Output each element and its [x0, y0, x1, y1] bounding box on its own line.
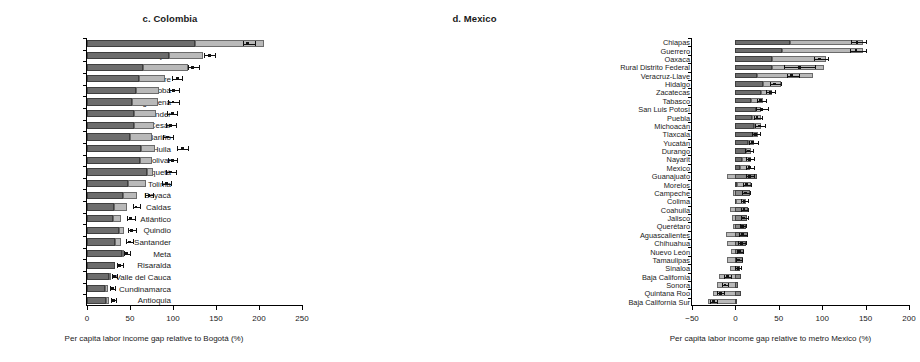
bar-segment-lower [87, 133, 130, 140]
category-label: Baja California Sur [592, 297, 690, 306]
error-bar-cap [757, 99, 758, 103]
bar-segment-lower [87, 145, 141, 152]
x-tick-label: 0 [85, 314, 89, 323]
point-estimate-marker [748, 175, 751, 178]
bar [735, 73, 813, 78]
error-bar-cap [717, 291, 718, 295]
bar [87, 203, 127, 210]
bar-segment-lower [735, 123, 754, 128]
point-estimate-marker [737, 259, 740, 262]
x-axis-line [692, 305, 910, 306]
error-bar-cap [768, 107, 769, 111]
error-bar-cap [116, 298, 117, 303]
point-estimate-marker [760, 108, 763, 111]
bar-segment-lower [87, 250, 122, 257]
category-tick [688, 113, 692, 114]
error-bar-cap [126, 239, 127, 244]
x-tick-label: 150 [209, 314, 222, 323]
category-tick [688, 197, 692, 198]
point-estimate-marker [745, 183, 748, 186]
bar [87, 227, 124, 234]
error-bar-cap [866, 49, 867, 53]
point-estimate-marker [112, 299, 115, 302]
error-bar-cap [128, 228, 129, 233]
category-tick [83, 248, 87, 249]
error-bar-cap [770, 82, 771, 86]
bar [87, 180, 146, 187]
error-bar-cap [745, 149, 746, 153]
point-estimate-marker [773, 83, 776, 86]
error-bar-cap [168, 100, 169, 105]
category-tick [688, 281, 692, 282]
error-bar-cap [115, 286, 116, 291]
point-estimate-marker [129, 217, 132, 220]
error-bar-cap [814, 57, 815, 61]
error-bar-cap [799, 74, 800, 78]
point-estimate-marker [856, 41, 859, 44]
error-bar-cap [741, 208, 742, 212]
bar [87, 64, 188, 71]
x-tick-label: 200 [252, 314, 265, 323]
point-estimate-marker [169, 124, 172, 127]
error-bar-cap [173, 135, 174, 140]
category-tick [83, 271, 87, 272]
bar-segment-lower [735, 274, 741, 279]
error-bar-cap [177, 158, 178, 163]
error-bar-cap [710, 300, 711, 304]
bar [87, 262, 115, 269]
bar-segment-upper [143, 64, 188, 71]
bar-segment-lower [87, 52, 169, 59]
category-tick [688, 155, 692, 156]
category-tick [83, 178, 87, 179]
error-bar-cap [123, 263, 124, 268]
error-bar-cap [752, 132, 753, 136]
bar-segment-lower [87, 110, 134, 117]
x-tick-label: 200 [902, 314, 915, 323]
bar-segment-lower [735, 107, 756, 112]
category-tick [688, 298, 692, 299]
point-estimate-marker [148, 194, 151, 197]
point-estimate-marker [724, 284, 727, 287]
error-bar-cap [153, 193, 154, 198]
x-axis-line [87, 305, 303, 306]
bar-segment-lower [735, 291, 740, 296]
error-bar-cap [169, 88, 170, 93]
point-estimate-marker [818, 58, 821, 61]
point-estimate-marker [169, 171, 172, 174]
error-bar-cap [758, 141, 759, 145]
point-estimate-marker [166, 136, 169, 139]
bar-segment-lower [735, 40, 790, 45]
error-bar-cap [731, 275, 732, 279]
error-bar-cap [755, 124, 756, 128]
point-estimate-marker [172, 89, 175, 92]
bar-segment-upper [128, 180, 146, 187]
error-bar-cap [748, 216, 749, 220]
category-tick [688, 63, 692, 64]
point-estimate-marker [176, 77, 179, 80]
bar [87, 87, 159, 94]
error-bar-cap [762, 116, 763, 120]
bar-segment-lower [87, 122, 134, 129]
bar-segment-lower [87, 192, 123, 199]
point-estimate-marker [790, 74, 793, 77]
error-bar-cap [738, 241, 739, 245]
bar-segment-lower [87, 157, 140, 164]
error-bar-cap [754, 157, 755, 161]
x-axis-title-mexico: Per capita labor income gap relative to … [616, 334, 920, 343]
point-estimate-marker [741, 225, 744, 228]
x-tick [779, 306, 780, 310]
bar [87, 122, 154, 129]
category-tick [688, 38, 692, 39]
category-tick [83, 61, 87, 62]
bar-segment-lower [735, 81, 763, 86]
error-bar-cap [749, 141, 750, 145]
panel-mexico: d. Mexico −50050100150200ChiapasGuerrero… [308, 0, 617, 362]
error-bar-cap [127, 216, 128, 221]
bar-segment-lower [87, 238, 115, 245]
point-estimate-marker [172, 101, 175, 104]
point-estimate-marker [743, 208, 746, 211]
error-bar-cap [815, 65, 816, 69]
error-bar-cap [760, 132, 761, 136]
error-bar [850, 51, 866, 52]
bar-segment-upper [119, 227, 124, 234]
